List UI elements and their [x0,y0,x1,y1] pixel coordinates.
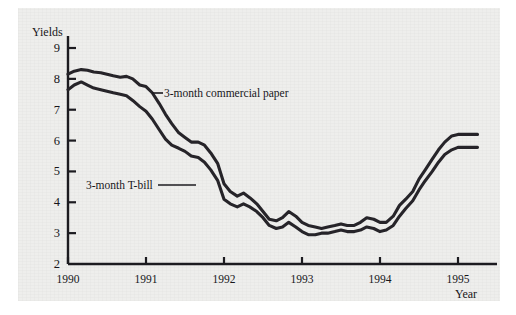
y-tick-label-4: 4 [40,196,60,209]
y-tick-label-5: 5 [40,165,60,178]
y-tick-label-6: 6 [40,135,60,148]
x-tick-label-1992: 1992 [202,274,246,286]
axis-group [68,36,497,264]
y-tick-label-8: 8 [40,73,60,86]
series-line-t-bill [68,82,478,235]
y-tick-label-9: 9 [40,42,60,55]
series-label-t-bill: 3-month T-bill [86,180,153,192]
series-label-commercial-paper: 3-month commercial paper [164,88,289,100]
y-tick-label-3: 3 [40,227,60,240]
x-axis-title: Year [455,288,477,300]
y-tick-label-7: 7 [40,104,60,117]
y-axis-title: Yields [32,26,63,38]
x-tick-label-1990: 1990 [46,274,90,286]
chart-plot [0,0,516,315]
x-tick-label-1994: 1994 [358,274,402,286]
x-tick-label-1995: 1995 [436,274,480,286]
x-tick-label-1991: 1991 [124,274,168,286]
y-tick-label-2: 2 [40,258,60,271]
figure-container: Yields Year 9876543219901991199219931994… [0,0,516,315]
x-tick-label-1993: 1993 [280,274,324,286]
